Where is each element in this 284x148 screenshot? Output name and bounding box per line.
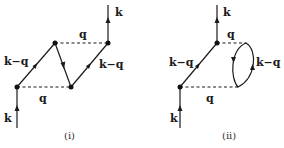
label-q-top: q <box>227 28 235 41</box>
vertex <box>53 41 58 46</box>
vertex <box>15 85 20 90</box>
vertex <box>106 41 111 46</box>
label-k-minus-q-right: k−q <box>99 58 124 71</box>
feynman-diagrams: k q k−q k−q q k (i) k q k−q k−q q k (i <box>0 0 284 148</box>
label-q-bottom: q <box>206 92 214 105</box>
label-k-top: k <box>223 6 231 19</box>
label-k-minus-q-left: k−q <box>169 56 194 69</box>
vertex <box>178 85 183 90</box>
label-k-minus-q-loop: k−q <box>256 56 281 69</box>
diagram-i: k q k−q k−q q k (i) <box>4 5 124 141</box>
arrow-up-icon <box>15 105 20 111</box>
diagram-ii: k q k−q k−q q k (ii) <box>169 5 281 141</box>
label-k-top: k <box>115 6 123 19</box>
label-q-bottom: q <box>39 92 47 105</box>
label-k-minus-q-left: k−q <box>4 55 29 68</box>
label-k-bottom: k <box>170 112 178 125</box>
arrow-down-icon <box>231 57 236 63</box>
arrow-up-icon <box>250 64 255 70</box>
label-k-bottom: k <box>4 112 12 125</box>
arrow-up-icon <box>215 17 220 23</box>
vertex <box>215 41 220 46</box>
arrow-up-icon <box>178 105 183 111</box>
caption-ii: (ii) <box>222 130 236 141</box>
label-q-top: q <box>79 28 87 41</box>
caption-i: (i) <box>64 130 75 141</box>
vertex <box>69 85 74 90</box>
arrow-up-icon <box>106 17 111 23</box>
k-minus-q-loop <box>233 43 254 87</box>
